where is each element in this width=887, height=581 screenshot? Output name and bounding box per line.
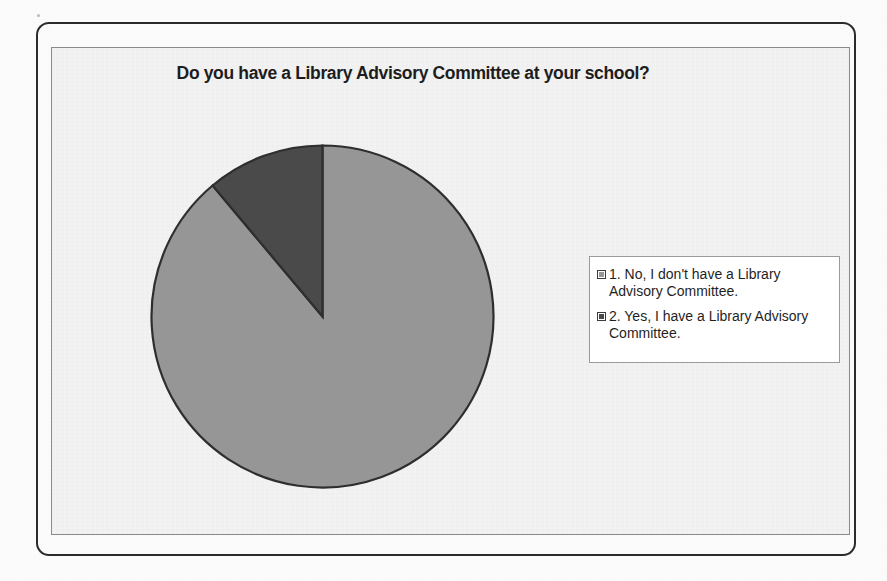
legend-item-yes[interactable]: 2. Yes, I have a Library Advisory Commit…: [597, 308, 833, 341]
legend-label-no: 1. No, I don't have a Library Advisory C…: [609, 266, 833, 299]
chart-title: Do you have a Library Advisory Committee…: [51, 63, 775, 84]
legend-item-no[interactable]: 1. No, I don't have a Library Advisory C…: [597, 266, 833, 299]
scan-speck: [37, 14, 40, 17]
legend-swatch-no: [597, 270, 606, 279]
legend-label-yes: 2. Yes, I have a Library Advisory Commit…: [609, 308, 833, 341]
pie-chart-svg: [150, 144, 495, 489]
scanned-page: Do you have a Library Advisory Committee…: [0, 0, 887, 581]
chart-legend: 1. No, I don't have a Library Advisory C…: [589, 256, 840, 363]
pie-chart: [150, 144, 495, 489]
legend-swatch-yes: [597, 312, 606, 321]
